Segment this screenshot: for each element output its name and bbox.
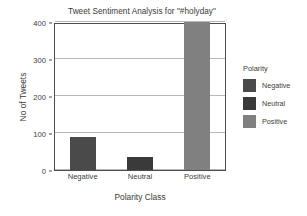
legend-title: Polarity (243, 64, 305, 73)
legend-label: Negative (262, 81, 290, 90)
chart-title: Tweet Sentiment Analysis for "#holyday" (52, 7, 232, 16)
y-tick-label: 100 (33, 130, 46, 139)
y-tick-label: 0 (42, 167, 46, 176)
chart-figure: Tweet Sentiment Analysis for "#holyday" … (0, 0, 307, 216)
x-tick-label: Neutral (112, 172, 168, 186)
x-tick-label: Negative (55, 172, 111, 186)
x-tick-label: Positive (169, 172, 225, 186)
legend-label: Positive (262, 117, 287, 126)
y-tick-mark (49, 97, 52, 98)
x-axis-ticks: NegativeNeutralPositive (54, 172, 226, 186)
y-tick-label: 300 (33, 56, 46, 65)
legend-item-neutral: Neutral (243, 97, 305, 110)
legend-items: NegativeNeutralPositive (243, 79, 305, 128)
x-axis-title: Polarity Class (54, 192, 226, 202)
legend-label: Neutral (262, 99, 285, 108)
y-tick-label: 400 (33, 19, 46, 28)
legend-swatch (243, 97, 256, 110)
y-tick-mark (49, 171, 52, 172)
legend-swatch (243, 115, 256, 128)
plot-area (54, 23, 226, 171)
legend: Polarity NegativeNeutralPositive (243, 64, 305, 133)
legend-item-negative: Negative (243, 79, 305, 92)
y-tick-mark (49, 60, 52, 61)
bar-neutral (127, 157, 153, 170)
y-axis-ticks: 0100200300400 (0, 23, 52, 171)
legend-item-positive: Positive (243, 115, 305, 128)
bar-series (55, 24, 225, 170)
y-tick-label: 200 (33, 93, 46, 102)
y-tick-mark (49, 23, 52, 24)
bar-positive (184, 22, 210, 170)
y-tick-mark (49, 134, 52, 135)
legend-swatch (243, 79, 256, 92)
bar-negative (70, 137, 96, 170)
